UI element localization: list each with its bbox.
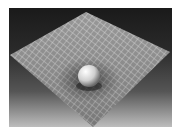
sphere [78,65,100,87]
grid-plane [9,8,172,127]
spacetime-image [9,8,172,127]
